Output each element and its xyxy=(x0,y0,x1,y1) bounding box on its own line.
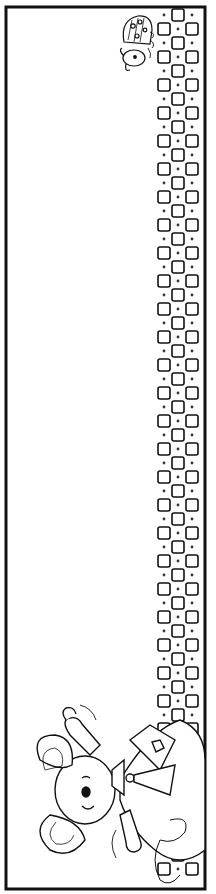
checker-dot xyxy=(163,70,166,73)
checker-square xyxy=(186,303,198,315)
checker-dot xyxy=(191,406,194,409)
checker-dot xyxy=(177,196,180,199)
checker-dot xyxy=(177,168,180,171)
checker-square xyxy=(158,583,170,595)
checker-dot xyxy=(191,490,194,493)
checker-dot xyxy=(163,350,166,353)
checker-square xyxy=(186,499,198,511)
checker-dot xyxy=(177,616,180,619)
checker-dot xyxy=(177,364,180,367)
checker-dot xyxy=(163,574,166,577)
checker-square xyxy=(186,863,198,875)
checker-square xyxy=(158,639,170,651)
checker-square xyxy=(172,345,184,357)
checker-square xyxy=(186,359,198,371)
checker-square xyxy=(186,387,198,399)
checker-square xyxy=(158,247,170,259)
checker-square xyxy=(186,415,198,427)
checker-square xyxy=(158,107,170,119)
checker-square xyxy=(172,401,184,413)
checker-square xyxy=(172,177,184,189)
checker-square xyxy=(172,569,184,581)
checker-dot xyxy=(191,378,194,381)
checker-square xyxy=(158,667,170,679)
checker-square xyxy=(172,597,184,609)
checker-square xyxy=(186,667,198,679)
checker-square xyxy=(158,219,170,231)
checker-dot xyxy=(177,448,180,451)
checker-dot xyxy=(191,350,194,353)
checker-square xyxy=(172,541,184,553)
checker-dot xyxy=(191,210,194,213)
checker-dot xyxy=(177,644,180,647)
checker-square xyxy=(158,611,170,623)
checker-square xyxy=(158,443,170,455)
checker-square xyxy=(158,471,170,483)
checker-dot xyxy=(163,210,166,213)
checker-dot xyxy=(177,588,180,591)
checker-square xyxy=(158,79,170,91)
checker-dot xyxy=(177,252,180,255)
checker-square xyxy=(186,219,198,231)
checker-dot xyxy=(177,532,180,535)
checker-square xyxy=(186,79,198,91)
checker-dot xyxy=(191,686,194,689)
checker-dot xyxy=(163,378,166,381)
checker-square xyxy=(172,149,184,161)
checker-dot xyxy=(177,336,180,339)
checker-dot xyxy=(163,602,166,605)
checker-square xyxy=(158,555,170,567)
checker-square xyxy=(186,107,198,119)
checker-dot xyxy=(163,126,166,129)
checker-square xyxy=(172,485,184,497)
checker-square xyxy=(172,317,184,329)
checker-dot xyxy=(191,462,194,465)
checker-dot xyxy=(191,238,194,241)
checker-square xyxy=(172,121,184,133)
checker-dot xyxy=(163,154,166,157)
checker-dot xyxy=(191,98,194,101)
checker-square xyxy=(158,359,170,371)
checker-square xyxy=(186,163,198,175)
checker-dot xyxy=(191,154,194,157)
checker-square xyxy=(186,471,198,483)
checker-square xyxy=(186,23,198,35)
checker-square xyxy=(172,93,184,105)
checker-dot xyxy=(163,182,166,185)
checker-dot xyxy=(177,140,180,143)
checker-square xyxy=(186,135,198,147)
checker-dot xyxy=(177,224,180,227)
checker-dot xyxy=(177,672,180,675)
checker-square xyxy=(186,331,198,343)
checker-dot xyxy=(177,504,180,507)
checker-square xyxy=(186,555,198,567)
checker-dot xyxy=(177,868,180,871)
checker-square xyxy=(172,653,184,665)
coloring-page-art xyxy=(0,0,216,894)
checker-dot xyxy=(191,630,194,633)
checker-dot xyxy=(191,42,194,45)
checker-dot xyxy=(191,546,194,549)
checker-dot xyxy=(163,42,166,45)
checker-square xyxy=(172,681,184,693)
checker-dot xyxy=(163,490,166,493)
checker-square xyxy=(158,527,170,539)
checker-dot xyxy=(163,322,166,325)
checker-square xyxy=(158,275,170,287)
checker-square xyxy=(172,709,184,721)
checker-square xyxy=(158,303,170,315)
checker-square xyxy=(186,275,198,287)
checker-dot xyxy=(163,658,166,661)
checker-square xyxy=(172,513,184,525)
checker-dot xyxy=(191,294,194,297)
checker-dot xyxy=(177,308,180,311)
checker-square xyxy=(172,289,184,301)
checker-dot xyxy=(163,630,166,633)
checker-square xyxy=(186,51,198,63)
checker-square xyxy=(186,583,198,595)
checker-dot xyxy=(191,182,194,185)
checker-square xyxy=(158,863,170,875)
checker-square xyxy=(158,695,170,707)
checker-dot xyxy=(163,714,166,717)
checker-square xyxy=(158,499,170,511)
